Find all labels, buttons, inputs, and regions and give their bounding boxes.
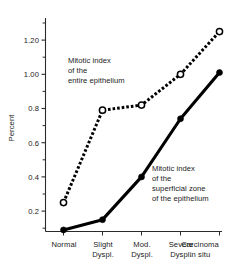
series-line-superficial-zone (64, 73, 220, 230)
y-tick-label-0.2: 0.2 (28, 207, 39, 216)
chart-figure: 1.20 1.00 0.8 0.6 0.4 0.2 Percent Normal… (0, 0, 227, 271)
y-axis-ticks (42, 23, 46, 228)
annotation-superficial-zone-line3: superficial zone (152, 184, 206, 193)
y-tick-label-0.8: 0.8 (28, 104, 39, 113)
annotation-entire-epithelium-line3: entire epithelium (68, 76, 125, 85)
x-tick-label-carcinoma-in-situ-line1: Carcinoma (181, 240, 219, 249)
data-point-superficial-zone-severe-dyspl (178, 116, 184, 122)
annotation-entire-epithelium-line2: of the (68, 66, 87, 75)
annotation-entire-epithelium-line1: Mitotic index (68, 56, 111, 65)
data-point-superficial-zone-slight-dyspl (100, 217, 106, 223)
y-tick-label-0.6: 0.6 (28, 139, 39, 148)
data-point-entire-epithelium-normal (60, 199, 66, 205)
x-tick-label-normal-line1: Normal (51, 240, 76, 249)
x-tick-label-slight-dyspl-line1: Slight (93, 240, 113, 249)
data-point-entire-epithelium-carcinoma-in-situ (216, 28, 222, 34)
annotation-superficial-zone-line2: of the (152, 174, 171, 183)
annotation-entire-epithelium: Mitotic index of the entire epithelium (68, 56, 125, 85)
y-tick-label-0.4: 0.4 (28, 173, 39, 182)
data-point-entire-epithelium-severe-dyspl (177, 71, 183, 77)
data-point-superficial-zone-carcinoma-in-situ (217, 70, 223, 76)
x-tick-label-mod-dyspl-line2: Dyspl. (131, 250, 153, 259)
y-tick-label-1.20: 1.20 (24, 36, 39, 45)
data-point-entire-epithelium-slight-dyspl (99, 107, 105, 113)
data-point-superficial-zone-normal (61, 227, 67, 233)
data-point-entire-epithelium-mod-dyspl (138, 102, 144, 108)
y-axis-tick-labels: 1.20 1.00 0.8 0.6 0.4 0.2 (24, 36, 39, 216)
annotation-superficial-zone: Mitotic index of the superficial zone of… (152, 164, 209, 203)
mitotic-index-line-chart: 1.20 1.00 0.8 0.6 0.4 0.2 Percent Normal… (0, 0, 227, 271)
x-tick-label-carcinoma-in-situ-line2: in situ (190, 250, 211, 259)
x-tick-label-severe-dyspl-line2: Dyspl. (170, 250, 192, 259)
y-axis-title-group: Percent (7, 114, 16, 142)
x-tick-label-mod-dyspl-line1: Mod. (133, 240, 150, 249)
x-axis-tick-labels: Normal Slight Dyspl. Mod. Dyspl. Severe … (51, 240, 219, 259)
annotation-superficial-zone-line4: of the epithelium (152, 194, 209, 203)
x-axis-ticks (64, 232, 220, 236)
annotation-superficial-zone-line1: Mitotic index (152, 164, 195, 173)
y-axis-title: Percent (7, 114, 16, 142)
y-tick-label-1.00: 1.00 (24, 70, 39, 79)
x-tick-label-slight-dyspl-line2: Dyspl. (92, 250, 114, 259)
data-point-superficial-zone-mod-dyspl (139, 174, 145, 180)
